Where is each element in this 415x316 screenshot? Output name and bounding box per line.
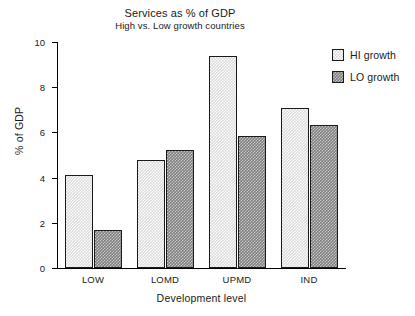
bar-upmd-hi bbox=[209, 56, 237, 268]
y-axis-tick: 2 bbox=[52, 223, 57, 224]
legend-item-hi-growth[interactable]: HI growth bbox=[332, 44, 399, 66]
y-axis-tick: 10 bbox=[52, 42, 57, 43]
bar-low-lo bbox=[94, 230, 122, 268]
y-axis-tick-label: 0 bbox=[40, 263, 45, 274]
legend-label: HI growth bbox=[350, 49, 396, 61]
y-axis-tick: 0 bbox=[52, 268, 57, 269]
y-axis-tick: 8 bbox=[52, 87, 57, 88]
legend: HI growthLO growth bbox=[332, 44, 399, 88]
plot-area: 0246810 LOWLOMDUPMDIND bbox=[57, 42, 345, 268]
bar-lomd-hi bbox=[137, 160, 165, 268]
x-axis-line bbox=[57, 268, 346, 269]
y-axis-tick-label: 2 bbox=[40, 217, 45, 228]
y-axis-tick: 6 bbox=[52, 132, 57, 133]
y-axis-title: % of GDP bbox=[13, 107, 25, 155]
bar-upmd-lo bbox=[238, 136, 266, 268]
chart-title: Services as % of GDP bbox=[0, 7, 360, 20]
bar-low-hi bbox=[65, 175, 93, 268]
chart-title-block: Services as % of GDP High vs. Low growth… bbox=[0, 7, 360, 32]
bar-lomd-lo bbox=[166, 150, 194, 268]
y-axis-tick-label: 8 bbox=[40, 82, 45, 93]
legend-item-lo-growth[interactable]: LO growth bbox=[332, 66, 399, 88]
legend-swatch-icon bbox=[332, 71, 344, 83]
legend-swatch-icon bbox=[332, 49, 344, 61]
bar-ind-hi bbox=[281, 108, 309, 268]
y-axis-tick-label: 4 bbox=[40, 172, 45, 183]
x-axis-category-label: LOW bbox=[82, 274, 104, 285]
y-axis-tick-label: 10 bbox=[34, 37, 45, 48]
x-axis-category-label: LOMD bbox=[151, 274, 179, 285]
y-axis-tick: 4 bbox=[52, 178, 57, 179]
bar-ind-lo bbox=[310, 125, 338, 269]
x-axis-category-label: IND bbox=[301, 274, 318, 285]
y-axis-tick-label: 6 bbox=[40, 127, 45, 138]
x-axis-title: Development level bbox=[57, 292, 346, 304]
x-axis-category-label: UPMD bbox=[223, 274, 252, 285]
y-axis-line bbox=[57, 42, 58, 269]
legend-label: LO growth bbox=[350, 71, 399, 83]
chart-subtitle: High vs. Low growth countries bbox=[0, 20, 360, 32]
